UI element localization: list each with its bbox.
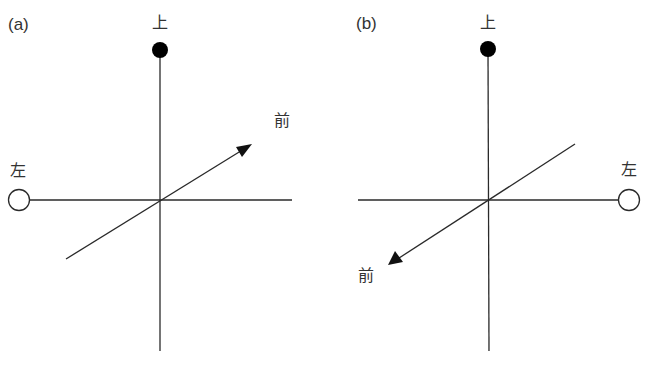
front-arrow-icon (236, 144, 252, 157)
panel-b: (b) 上 左 前 (320, 0, 645, 368)
label-left: 左 (10, 162, 26, 180)
up-marker-filled-icon (480, 41, 496, 57)
left-marker-hollow-icon (9, 190, 30, 211)
front-arrow-icon (388, 251, 403, 265)
left-marker-hollow-icon (619, 190, 640, 211)
label-up: 上 (152, 14, 168, 32)
panel-a: (a) 上 左 前 (0, 0, 320, 368)
label-up: 上 (480, 14, 496, 32)
label-front: 前 (274, 112, 290, 130)
depth-axis (66, 149, 244, 259)
depth-axis (396, 144, 575, 260)
panel-label-b: (b) (356, 15, 377, 33)
figure-caption (200, 364, 500, 368)
panel-label-a: (a) (8, 16, 29, 34)
label-front: 前 (358, 267, 374, 285)
axes-diagram-b (320, 0, 645, 368)
up-marker-filled-icon (152, 42, 168, 58)
axes-diagram-a (0, 0, 320, 368)
label-left: 左 (621, 161, 637, 179)
